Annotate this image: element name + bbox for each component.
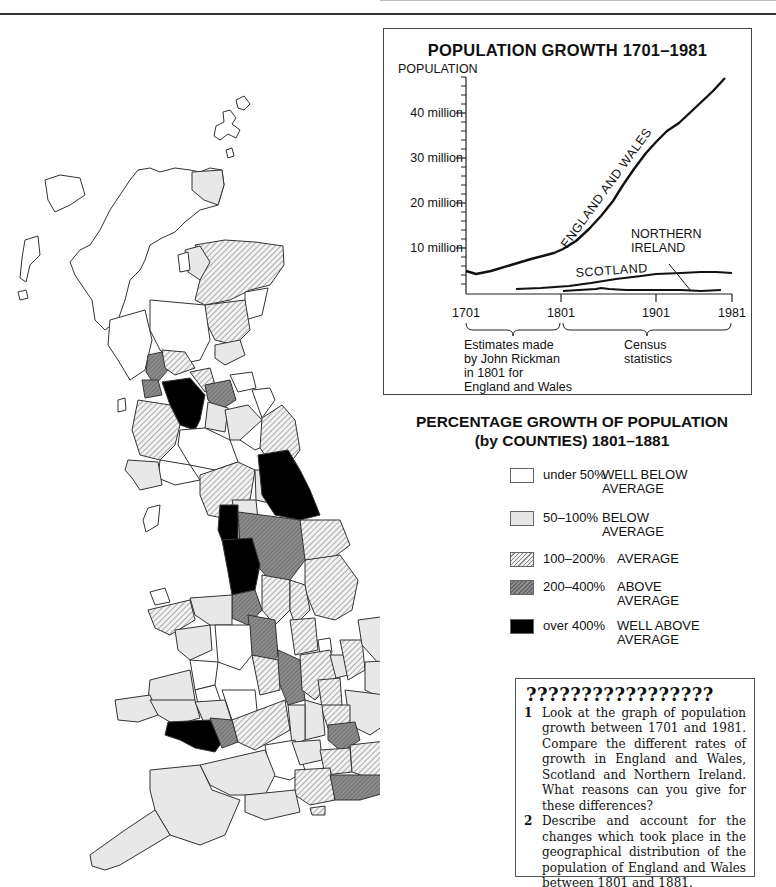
x-tick-1901: 1901 (642, 306, 670, 320)
isle-of-man (143, 505, 160, 532)
question-text: Look at the graph of population growth b… (542, 706, 746, 813)
isle-of-wight (310, 806, 325, 815)
kincardine (245, 288, 268, 320)
question-1: 1 Look at the graph of population growth… (524, 706, 746, 815)
shropshire (215, 625, 252, 670)
legend-description: AVERAGE (617, 552, 707, 566)
y-tick-30m: 30 million (410, 151, 463, 165)
map-title-line1: PERCENTAGE GROWTH OF POPULATION (372, 412, 772, 431)
annotation-estimates-line3: in 1801 for (464, 366, 523, 380)
legend-item-over-400: over 400% WELL ABOVE AVERAGE (510, 616, 770, 646)
question-number: 2 (524, 814, 532, 830)
anglesey (150, 588, 170, 605)
x-tick-1701: 1701 (452, 306, 480, 320)
legend-item-200-400: 200–400% ABOVE AVERAGE (510, 577, 770, 607)
x-tick-1981: 1981 (718, 306, 746, 320)
questions-header: ????????????????? (526, 687, 746, 703)
bedford (318, 678, 342, 708)
sussex (330, 775, 380, 800)
legend-swatch-white (510, 468, 534, 483)
header-thin-rule (380, 0, 776, 1)
derby (262, 575, 290, 625)
questions-box: ????????????????? 1 Look at the graph of… (515, 678, 755, 877)
annotation-census-line2: statistics (624, 352, 672, 366)
oxford (288, 705, 305, 745)
y-tick-10m: 10 million (410, 241, 463, 255)
y-axis-label: POPULATION (398, 62, 478, 76)
legend-description: ABOVE AVERAGE (617, 580, 707, 608)
legend-swatch-dark-grey (510, 580, 534, 595)
renfrew (142, 380, 162, 398)
leicester (290, 618, 318, 655)
peebles (205, 402, 228, 432)
legend-range: 50–100% (543, 511, 598, 525)
legend-range: over 400% (543, 619, 605, 633)
legend-item-under-50: under 50% WELL BELOW AVERAGE (510, 465, 770, 495)
map-title: PERCENTAGE GROWTH OF POPULATION (by COUN… (372, 412, 772, 450)
merioneth (175, 625, 212, 660)
annotation-estimates-line1: Estimates made (464, 338, 554, 352)
cornwall (90, 810, 170, 870)
isle-of-arran (118, 398, 126, 412)
legend-item-50-100: 50–100% BELOW AVERAGE (510, 508, 770, 538)
legend-description: BELOW AVERAGE (602, 511, 692, 539)
annotation-census-line1: Census (624, 338, 666, 352)
argyll (108, 310, 152, 380)
shetland-islands (214, 110, 240, 140)
y-tick-20m: 20 million (410, 196, 463, 210)
legend-range: 200–400% (543, 580, 605, 594)
series-england-and-wales (466, 78, 725, 274)
legend-swatch-hatched (510, 552, 534, 567)
question-text: Describe and account for the changes whi… (542, 814, 746, 887)
legend-swatch-light-grey (510, 511, 534, 526)
buckingham (305, 700, 325, 740)
denbigh-flint (190, 595, 232, 625)
chart-plot: POPULATION 40 million 30 million 20 mill… (384, 29, 753, 396)
east-lothian (230, 372, 256, 392)
angus (205, 300, 250, 345)
header-rule (0, 13, 776, 15)
yorkshire-nr (258, 450, 320, 520)
label-northern: NORTHERN (631, 227, 702, 241)
x-tick-1801: 1801 (547, 306, 575, 320)
hampshire (295, 768, 335, 805)
kent (350, 740, 380, 780)
legend-swatch-black (510, 619, 534, 634)
question-number: 1 (524, 706, 532, 722)
legend-range: 100–200% (543, 552, 605, 566)
legend-description: WELL BELOW AVERAGE (602, 468, 692, 496)
series-northern-ireland (563, 288, 721, 291)
legend-range: under 50% (543, 468, 606, 482)
legend-description: WELL ABOVE AVERAGE (617, 619, 707, 647)
wigtown (125, 460, 162, 490)
annotation-estimates-line4: England and Wales (464, 380, 572, 394)
legend-item-100-200: 100–200% AVERAGE (510, 549, 770, 579)
western-isles (45, 175, 85, 212)
dorset (245, 790, 300, 820)
worcester (252, 655, 280, 695)
uk-county-map (0, 80, 380, 880)
annotation-estimates-line2: by John Rickman (464, 352, 560, 366)
population-growth-chart: POPULATION GROWTH 1701–1981 POPULATION 4… (383, 28, 752, 395)
lincolnshire (305, 555, 358, 620)
question-2: 2 Describe and account for the changes w… (524, 814, 746, 887)
map-title-line2: (by COUNTIES) 1801–1881 (372, 431, 772, 450)
pembroke (115, 695, 158, 722)
y-tick-40m: 40 million (410, 106, 463, 120)
nairn (178, 252, 190, 272)
banff-aberdeen (195, 240, 284, 305)
yorkshire-er (300, 520, 350, 560)
fife (215, 340, 245, 365)
label-ireland: IRELAND (631, 241, 685, 255)
lancashire (222, 538, 260, 595)
